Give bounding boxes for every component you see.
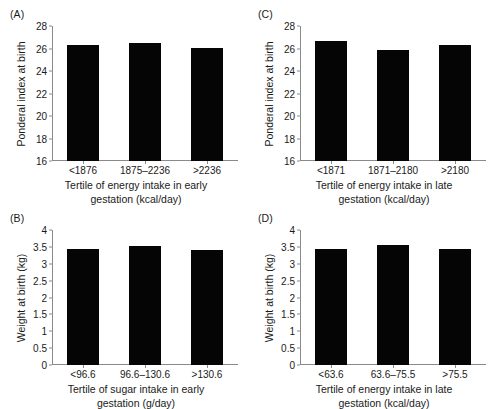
y-tick-mark <box>49 116 52 117</box>
x-tick-label: >75.5 <box>442 369 467 380</box>
panel-letter-c: (C) <box>258 8 273 20</box>
y-axis-line <box>300 230 301 365</box>
plot-area-b: 00.511.522.533.54<96.696.6–130.6>130.6 <box>52 230 238 365</box>
x-tick-mark <box>207 365 208 368</box>
x-axis-title-line1: Tertile of energy intake in early <box>65 179 207 191</box>
bar <box>129 43 162 161</box>
y-tick-mark <box>297 280 300 281</box>
x-tick-label: <63.6 <box>318 369 343 380</box>
bar <box>191 250 224 365</box>
figure-four-panel-bar-charts: (A)Ponderal index at birth16182022242628… <box>0 0 496 409</box>
y-tick-mark <box>49 365 52 366</box>
x-axis-title-line1: Tertile of energy intake in late <box>316 179 453 191</box>
x-tick-mark <box>207 161 208 164</box>
x-tick-mark <box>331 365 332 368</box>
x-tick-mark <box>145 161 146 164</box>
panel-letter-d: (D) <box>258 212 273 224</box>
x-tick-label: 1871–2180 <box>368 165 418 176</box>
y-tick-mark <box>49 263 52 264</box>
x-axis-title-c: Tertile of energy intake in lategestatio… <box>278 178 490 206</box>
y-tick-mark <box>49 93 52 94</box>
x-tick-mark <box>83 161 84 164</box>
bar <box>315 249 348 365</box>
y-tick-mark <box>297 331 300 332</box>
x-tick-label: >2236 <box>193 165 221 176</box>
y-tick-mark <box>49 314 52 315</box>
y-axis-title-text: Ponderal index at birth <box>15 41 27 146</box>
y-tick-mark <box>297 161 300 162</box>
x-tick-mark <box>331 161 332 164</box>
panel-a: (A)Ponderal index at birth16182022242628… <box>0 0 248 204</box>
bar <box>439 249 472 365</box>
x-tick-label: 96.6–130.6 <box>120 369 170 380</box>
y-axis-line <box>52 26 53 161</box>
y-tick-mark <box>49 297 52 298</box>
bar <box>129 246 162 365</box>
bar <box>191 48 224 161</box>
bar <box>377 245 410 365</box>
y-tick-mark <box>49 246 52 247</box>
y-tick-mark <box>49 280 52 281</box>
panel-c: (C)Ponderal index at birth16182022242628… <box>248 0 496 204</box>
y-axis-line <box>300 26 301 161</box>
y-tick-mark <box>49 230 52 231</box>
bar <box>439 45 472 161</box>
x-tick-label: >130.6 <box>192 369 223 380</box>
x-tick-mark <box>455 161 456 164</box>
y-tick-mark <box>297 297 300 298</box>
y-tick-mark <box>297 348 300 349</box>
plot-area-d: 00.511.522.533.54<63.663.6–75.5>75.5 <box>300 230 486 365</box>
x-axis-title-d: Tertile of energy intake in lategestatio… <box>278 382 490 409</box>
y-tick-mark <box>49 138 52 139</box>
y-axis-title-a: Ponderal index at birth <box>14 26 28 161</box>
x-axis-title-a: Tertile of energy intake in earlygestati… <box>30 178 242 206</box>
x-tick-label: <96.6 <box>70 369 95 380</box>
y-axis-title-c: Ponderal index at birth <box>262 26 276 161</box>
x-axis-title-line2: gestation (g/day) <box>30 396 242 409</box>
x-tick-mark <box>393 161 394 164</box>
y-tick-mark <box>49 48 52 49</box>
x-tick-mark <box>455 365 456 368</box>
y-tick-mark <box>297 26 300 27</box>
bar <box>67 45 100 161</box>
y-axis-title-text: Ponderal index at birth <box>263 41 275 146</box>
y-tick-mark <box>49 331 52 332</box>
y-axis-title-text: Weight at birth (kg) <box>263 253 275 342</box>
y-axis-title-b: Weight at birth (kg) <box>14 230 28 365</box>
y-tick-mark <box>49 71 52 72</box>
bar <box>377 50 410 161</box>
x-tick-label: 63.6–75.5 <box>371 369 416 380</box>
y-tick-mark <box>297 314 300 315</box>
x-tick-mark <box>83 365 84 368</box>
y-tick-mark <box>297 230 300 231</box>
y-tick-mark <box>297 138 300 139</box>
y-tick-mark <box>297 48 300 49</box>
y-tick-mark <box>297 263 300 264</box>
y-tick-mark <box>49 348 52 349</box>
y-tick-mark <box>297 93 300 94</box>
bar <box>67 249 100 365</box>
y-axis-title-d: Weight at birth (kg) <box>262 230 276 365</box>
x-tick-mark <box>145 365 146 368</box>
x-tick-label: <1876 <box>69 165 97 176</box>
x-tick-label: >2180 <box>441 165 469 176</box>
panel-d: (D)Weight at birth (kg)00.511.522.533.54… <box>248 204 496 408</box>
y-tick-mark <box>297 246 300 247</box>
x-tick-label: <1871 <box>317 165 345 176</box>
x-axis-title-line1: Tertile of sugar intake in early <box>68 383 205 395</box>
panel-letter-b: (B) <box>10 212 24 224</box>
x-tick-mark <box>393 365 394 368</box>
panel-b: (B)Weight at birth (kg)00.511.522.533.54… <box>0 204 248 408</box>
y-tick-mark <box>49 161 52 162</box>
y-tick-mark <box>297 71 300 72</box>
x-tick-label: 1875–2236 <box>120 165 170 176</box>
y-axis-title-text: Weight at birth (kg) <box>15 253 27 342</box>
y-tick-mark <box>297 365 300 366</box>
plot-area-c: 16182022242628<18711871–2180>2180 <box>300 26 486 161</box>
y-tick-mark <box>49 26 52 27</box>
bar <box>315 41 348 161</box>
x-axis-title-b: Tertile of sugar intake in earlygestatio… <box>30 382 242 409</box>
plot-area-a: 16182022242628<18761875–2236>2236 <box>52 26 238 161</box>
y-tick-mark <box>297 116 300 117</box>
x-axis-title-line2: gestation (kcal/day) <box>278 396 490 409</box>
